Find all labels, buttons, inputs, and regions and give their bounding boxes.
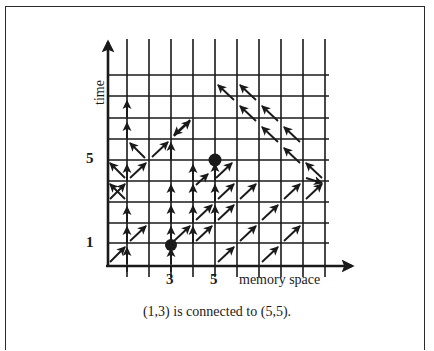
y-axis-title: time — [92, 80, 108, 105]
x-tick-label-3: 3 — [166, 271, 174, 288]
lattice-plot — [0, 0, 434, 351]
y-tick-label-1: 1 — [86, 234, 94, 251]
x-axis-title: memory space — [239, 272, 320, 288]
x-tick-label-5: 5 — [210, 271, 218, 288]
dependence-arrows — [110, 85, 322, 264]
y-tick-label-5: 5 — [86, 150, 94, 167]
figure-container: time 5 1 3 5 memory space (1,3) is conne… — [0, 0, 434, 351]
figure-caption: (1,3) is connected to (5,5). — [0, 304, 434, 320]
node-5-5 — [209, 154, 222, 167]
node-1-3 — [165, 239, 177, 251]
